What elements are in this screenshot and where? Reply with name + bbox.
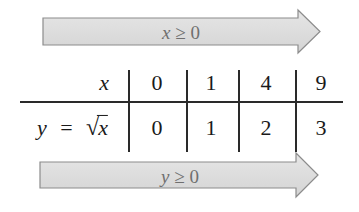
table-divider [295, 70, 297, 152]
row-y-value: 1 [206, 117, 217, 139]
row-y-value: 3 [316, 117, 327, 139]
value-table: x 0 1 4 9 y = √x 0 1 2 3 [0, 0, 359, 212]
row-y-value: 0 [152, 117, 163, 139]
row-y-label: y = √x [37, 115, 108, 139]
sqrt-argument: x [97, 115, 108, 139]
row-y-value: 2 [261, 117, 272, 139]
table-divider [238, 70, 240, 152]
row-y-lhs: y [37, 115, 47, 140]
table-divider [128, 70, 130, 152]
row-x-value: 9 [316, 72, 327, 94]
row-x-value: 4 [261, 72, 272, 94]
row-x-value: 0 [152, 72, 163, 94]
row-x-value: 1 [206, 72, 217, 94]
row-x-label: x [99, 72, 109, 94]
sqrt-expression: √x [86, 115, 108, 139]
table-divider [186, 70, 188, 152]
row-y-equals: = [60, 115, 72, 140]
